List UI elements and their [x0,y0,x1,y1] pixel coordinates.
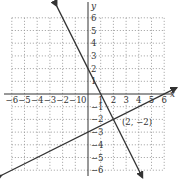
y-tick-label: −1 [91,102,104,112]
y-axis-label: y [90,1,97,11]
origin-label: 0 [81,95,86,105]
intersection-label: (2, −2) [122,117,152,127]
y-tick-label: −6 [91,165,104,175]
x-tick-label: −4 [31,95,44,105]
y-tick-label: 3 [91,51,96,61]
coordinate-plane: −6−5−4−3−2−1123456654321−1−2−3−4−5−60 x … [0,0,179,180]
x-tick-label: 6 [161,95,166,105]
x-tick-label: 2 [111,95,116,105]
y-tick-label: 4 [91,38,96,48]
x-tick-label: −2 [56,95,69,105]
y-tick-label: −2 [91,114,104,124]
x-tick-label: −6 [6,95,19,105]
x-tick-label: −3 [44,95,57,105]
lines [2,6,177,177]
x-tick-label: 4 [136,95,141,105]
y-tick-label: −4 [91,140,104,150]
y-tick-label: −5 [91,153,104,163]
y-tick-label: −3 [91,127,104,137]
y-tick-label: 5 [91,26,96,36]
axes [4,2,172,176]
y-tick-label: 2 [91,64,96,74]
x-axis-label: x [170,89,175,99]
y-tick-label: 6 [91,13,96,23]
x-tick-label: −5 [18,95,31,105]
x-tick-label: −1 [69,95,82,105]
x-tick-label: 3 [123,95,128,105]
